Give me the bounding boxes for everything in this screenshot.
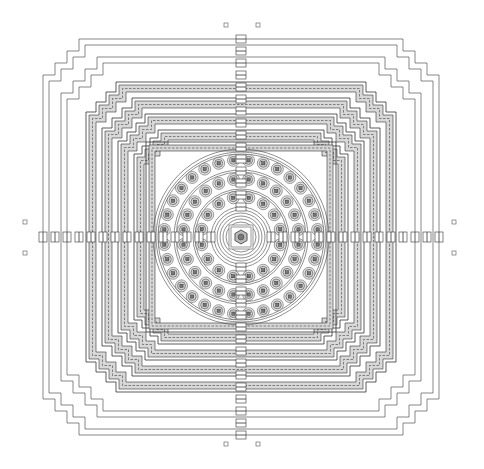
- perforated-stupa: [189, 196, 201, 208]
- perforated-stupa: [271, 299, 283, 311]
- perforated-stupa: [281, 266, 293, 278]
- perforated-stupa: [289, 209, 301, 221]
- perforated-stupa: [181, 209, 193, 221]
- perforated-stupa: [257, 285, 269, 297]
- boundary-marker: [224, 442, 228, 446]
- perforated-stupa: [289, 253, 301, 265]
- perforated-stupa: [181, 253, 193, 265]
- stairway: [267, 232, 443, 242]
- temple-plan-diagram: [0, 0, 484, 469]
- perforated-stupa: [270, 185, 282, 197]
- perforated-stupa: [303, 195, 315, 207]
- perforated-stupa: [309, 253, 321, 265]
- perforated-stupa: [284, 171, 296, 183]
- stairway: [236, 263, 246, 439]
- perforated-stupa: [303, 267, 315, 279]
- perforated-stupa: [281, 196, 293, 208]
- boundary-marker: [256, 442, 260, 446]
- perforated-stupa: [202, 209, 214, 221]
- boundary-marker: [23, 220, 27, 224]
- perforated-stupa: [213, 305, 225, 317]
- stairway: [39, 232, 215, 242]
- boundary-marker: [452, 220, 456, 224]
- perforated-stupa: [213, 177, 225, 189]
- perforated-stupa: [268, 209, 280, 221]
- perforated-stupa: [271, 163, 283, 175]
- perforated-stupa: [175, 182, 187, 194]
- boundary-marker: [452, 251, 456, 255]
- boundary-marker: [23, 251, 27, 255]
- boundary-marker: [224, 23, 228, 27]
- perforated-stupa: [257, 264, 269, 276]
- stairway: [236, 35, 246, 211]
- perforated-stupa: [309, 209, 321, 221]
- perforated-stupa: [257, 157, 269, 169]
- perforated-stupa: [268, 253, 280, 265]
- perforated-stupa: [161, 253, 173, 265]
- perforated-stupa: [257, 305, 269, 317]
- perforated-stupa: [189, 266, 201, 278]
- perforated-stupa: [200, 277, 212, 289]
- perforated-stupa: [257, 198, 269, 210]
- perforated-stupa: [213, 285, 225, 297]
- perforated-stupa: [202, 253, 214, 265]
- perforated-stupa: [167, 195, 179, 207]
- perforated-stupa: [213, 157, 225, 169]
- perforated-stupa: [186, 291, 198, 303]
- perforated-stupa: [270, 277, 282, 289]
- boundary-marker: [256, 23, 260, 27]
- perforated-stupa: [186, 171, 198, 183]
- main-stupa-pinnacle: [238, 234, 244, 240]
- perforated-stupa: [213, 198, 225, 210]
- perforated-stupa: [295, 280, 307, 292]
- perforated-stupa: [167, 267, 179, 279]
- perforated-stupa: [200, 185, 212, 197]
- perforated-stupa: [175, 280, 187, 292]
- main-stupa: [229, 225, 253, 249]
- perforated-stupa: [295, 182, 307, 194]
- perforated-stupa: [213, 264, 225, 276]
- perforated-stupa: [284, 291, 296, 303]
- perforated-stupa: [199, 299, 211, 311]
- perforated-stupa: [199, 163, 211, 175]
- perforated-stupa: [257, 177, 269, 189]
- perforated-stupa: [161, 209, 173, 221]
